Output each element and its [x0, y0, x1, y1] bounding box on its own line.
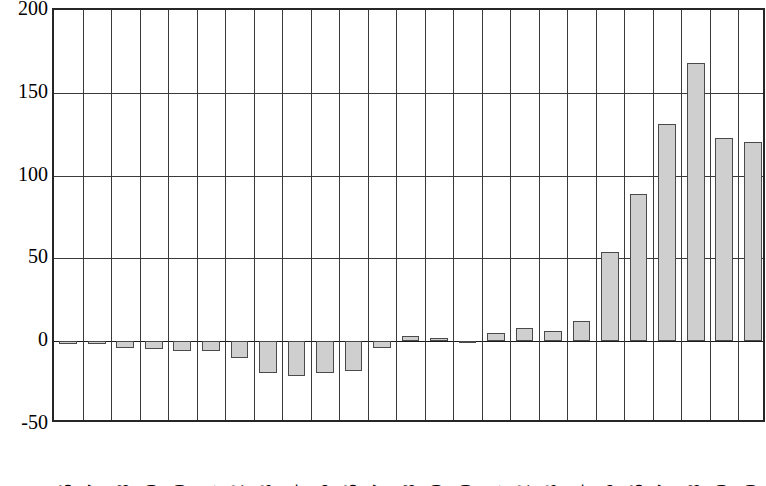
horizontal-gridline — [54, 176, 763, 177]
bar — [145, 341, 163, 349]
vertical-gridline — [482, 10, 483, 420]
x-axis: 1986198719881989199019911992199319941995… — [52, 424, 765, 486]
y-tick-label: 50 — [0, 245, 48, 268]
bar-chart: 1986198719881989199019911992199319941995… — [0, 0, 766, 486]
bar — [459, 341, 477, 343]
y-tick-label: 0 — [0, 328, 48, 351]
bar — [744, 142, 762, 341]
bar — [715, 138, 733, 342]
bar — [430, 338, 448, 341]
y-tick-label: 150 — [0, 79, 48, 102]
vertical-gridline — [168, 10, 169, 420]
vertical-gridline — [368, 10, 369, 420]
vertical-gridline — [539, 10, 540, 420]
bar — [516, 328, 534, 341]
vertical-gridline — [624, 10, 625, 420]
vertical-gridline — [710, 10, 711, 420]
bar — [288, 341, 306, 376]
y-tick-label: 100 — [0, 162, 48, 185]
bar — [345, 341, 363, 371]
vertical-gridline — [339, 10, 340, 420]
vertical-gridline — [596, 10, 597, 420]
bar — [259, 341, 277, 372]
plot-area — [52, 8, 765, 422]
vertical-gridline — [197, 10, 198, 420]
vertical-gridline — [311, 10, 312, 420]
vertical-gridline — [681, 10, 682, 420]
vertical-gridline — [653, 10, 654, 420]
y-tick-label: 200 — [0, 0, 48, 20]
bar — [487, 333, 505, 341]
vertical-gridline — [567, 10, 568, 420]
bar — [630, 194, 648, 341]
bar — [373, 341, 391, 348]
bar — [544, 331, 562, 341]
bar — [316, 341, 334, 372]
bar — [116, 341, 134, 348]
bar — [573, 321, 591, 341]
vertical-gridline — [111, 10, 112, 420]
bar — [173, 341, 191, 351]
bar — [658, 124, 676, 341]
horizontal-gridline — [54, 93, 763, 94]
bar — [687, 63, 705, 341]
bar — [202, 341, 220, 351]
bar — [402, 336, 420, 341]
vertical-gridline — [83, 10, 84, 420]
bar — [231, 341, 249, 358]
vertical-gridline — [282, 10, 283, 420]
vertical-gridline — [140, 10, 141, 420]
vertical-gridline — [510, 10, 511, 420]
vertical-gridline — [738, 10, 739, 420]
bar — [59, 341, 77, 344]
bar — [88, 341, 106, 344]
vertical-gridline — [225, 10, 226, 420]
y-tick-label: -50 — [0, 411, 48, 434]
horizontal-gridline — [54, 258, 763, 259]
bar — [601, 252, 619, 341]
vertical-gridline — [396, 10, 397, 420]
vertical-gridline — [425, 10, 426, 420]
vertical-gridline — [453, 10, 454, 420]
vertical-gridline — [254, 10, 255, 420]
